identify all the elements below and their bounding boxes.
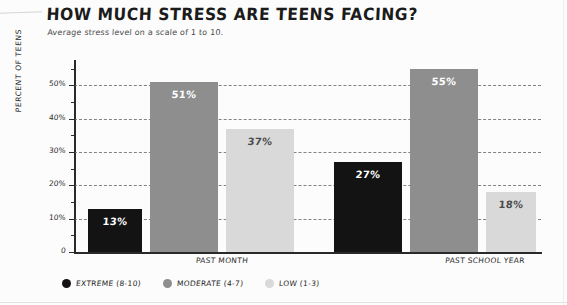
y-axis-tick-label: 0 [61, 247, 66, 255]
paper-edge-right [563, 0, 564, 305]
bar-value-label: 55% [410, 76, 479, 87]
y-axis-title: PERCENT OF TEENS [14, 29, 23, 113]
chart-legend: EXTREME (8-10)MODERATE (4-7)LOW (1-3) [62, 279, 320, 288]
y-axis-tick-label: 20% [49, 180, 66, 188]
bar-low[interactable]: 37% [226, 129, 294, 252]
y-axis-tick-label: 50% [49, 80, 66, 88]
chart-page: HOW MUCH STRESS ARE TEENS FACING? Averag… [0, 0, 567, 305]
y-axis-tick [69, 85, 75, 86]
bar-value-label: 51% [150, 89, 219, 100]
y-axis-tick-label: 10% [49, 214, 66, 222]
x-axis-group-label: PAST SCHOOL YEAR [410, 256, 561, 265]
paper-edge-bottom [0, 302, 567, 303]
y-axis-tick-label: 40% [49, 114, 66, 122]
y-axis-minor-tick [71, 235, 75, 236]
legend-label: MODERATE (4-7) [177, 279, 244, 288]
bar-low[interactable]: 18% [486, 192, 536, 252]
y-axis-tick [69, 252, 75, 253]
y-axis-minor-tick [71, 102, 75, 103]
legend-item[interactable]: LOW (1-3) [265, 279, 319, 288]
plot-area: 010%20%30%40%50%13%51%37%27%55%18% [74, 62, 541, 252]
bar-value-label: 18% [486, 199, 537, 210]
legend-label: LOW (1-3) [279, 279, 320, 288]
bar-value-label: 37% [226, 136, 295, 147]
y-axis-minor-tick [71, 69, 75, 70]
legend-label: EXTREME (8-10) [76, 279, 142, 288]
y-axis-tick [69, 119, 75, 120]
bar-moderate[interactable]: 51% [150, 82, 218, 252]
y-axis-tick [69, 185, 75, 186]
legend-swatch-icon [163, 279, 172, 288]
bar-extreme[interactable]: 27% [334, 162, 402, 252]
legend-swatch-icon [62, 279, 71, 288]
bar-value-label: 13% [88, 216, 143, 227]
legend-swatch-icon [265, 279, 274, 288]
y-axis-tick-label: 30% [49, 147, 66, 155]
y-axis-tick [69, 219, 75, 220]
paper-edge-top [0, 11, 42, 13]
y-axis-minor-tick [71, 202, 75, 203]
y-axis-minor-tick [71, 135, 75, 136]
chart-title: HOW MUCH STRESS ARE TEENS FACING? [46, 5, 418, 24]
x-axis-line [74, 252, 542, 254]
y-axis-tick [69, 152, 75, 153]
bar-value-label: 27% [334, 169, 403, 180]
bar-extreme[interactable]: 13% [88, 209, 142, 252]
x-axis-group-label: PAST MONTH [150, 256, 295, 265]
chart-subtitle: Average stress level on a scale of 1 to … [47, 28, 224, 37]
legend-item[interactable]: MODERATE (4-7) [163, 279, 243, 288]
bar-moderate[interactable]: 55% [410, 69, 478, 252]
legend-item[interactable]: EXTREME (8-10) [62, 279, 141, 288]
y-axis-minor-tick [71, 169, 75, 170]
